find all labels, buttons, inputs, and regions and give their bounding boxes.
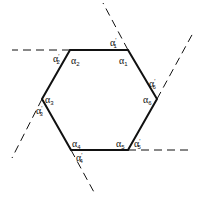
label-alpha-1: α1 <box>119 55 128 67</box>
label-alpha-5: α5 <box>116 138 125 150</box>
label-alpha-1-prime: α′1 <box>110 37 117 49</box>
hexagon-outline <box>42 50 157 150</box>
label-alpha-5-prime: α′5 <box>134 138 141 150</box>
label-alpha-3-prime: α′3 <box>36 105 43 117</box>
label-alpha-6-prime: α′6 <box>149 78 156 90</box>
hexagon-diagram: α1 α2 α3 α4 α5 α6 α′1 α′2 α′3 α′4 α′5 α′… <box>0 0 199 201</box>
extension-lines <box>12 3 193 194</box>
label-alpha-4-prime: α′4 <box>76 152 83 164</box>
exterior-angle-labels: α′1 α′2 α′3 α′4 α′5 α′6 <box>36 37 156 164</box>
label-alpha-2-prime: α′2 <box>53 53 60 65</box>
label-alpha-3: α3 <box>45 94 54 106</box>
label-alpha-4: α4 <box>72 138 81 150</box>
label-alpha-6: α6 <box>143 94 152 106</box>
extension-line-6 <box>157 33 193 99</box>
extension-line-4 <box>71 150 95 194</box>
label-alpha-2: α2 <box>71 55 80 67</box>
